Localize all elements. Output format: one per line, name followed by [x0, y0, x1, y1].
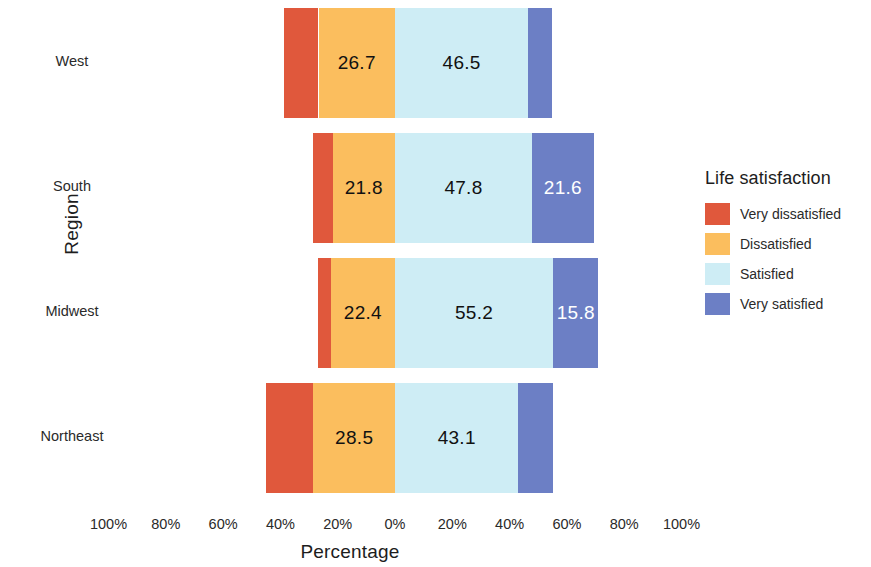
bar-value-label: 15.8: [557, 302, 595, 324]
x-axis-title: Percentage: [0, 541, 700, 563]
x-tick-label: 60%: [537, 516, 597, 532]
bar-value-label: 55.2: [455, 302, 493, 324]
x-tick-label: 20%: [422, 516, 482, 532]
bar-segment: 15.8: [553, 258, 598, 368]
plot-area: 26.746.521.847.821.622.455.215.828.543.1: [0, 0, 700, 510]
legend-item[interactable]: Very dissatisfied: [705, 201, 871, 227]
bar-value-label: 26.7: [338, 52, 376, 74]
legend-item[interactable]: Very satisfied: [705, 291, 871, 317]
bar-segment: 26.7: [319, 8, 395, 118]
bar-segment: 28.5: [313, 383, 395, 493]
bar-row: 28.543.1: [0, 383, 700, 493]
x-tick-label: 20%: [308, 516, 368, 532]
bar-segment: [528, 8, 552, 118]
x-tick-label: 40%: [480, 516, 540, 532]
bar-segment: 46.5: [395, 8, 528, 118]
bar-segment: [266, 383, 313, 493]
x-tick-label: 40%: [250, 516, 310, 532]
bar-segment: 21.8: [333, 133, 395, 243]
legend-swatch: [705, 293, 730, 315]
bar-segment: 21.6: [532, 133, 594, 243]
x-tick-label: 80%: [594, 516, 654, 532]
bar-segment: [518, 383, 552, 493]
x-tick-label: 100%: [652, 516, 712, 532]
legend-title: Life satisfaction: [705, 168, 871, 189]
x-tick-label: 100%: [79, 516, 139, 532]
legend-swatch: [705, 233, 730, 255]
legend-label: Very satisfied: [740, 296, 823, 312]
legend-swatch: [705, 203, 730, 225]
bar-value-label: 46.5: [443, 52, 481, 74]
x-tick-label: 80%: [136, 516, 196, 532]
legend-item[interactable]: Satisfied: [705, 261, 871, 287]
bar-value-label: 43.1: [438, 427, 476, 449]
legend-label: Dissatisfied: [740, 236, 812, 252]
bar-value-label: 47.8: [444, 177, 482, 199]
x-tick-label: 0%: [365, 516, 425, 532]
bar-row: 26.746.5: [0, 8, 700, 118]
bar-segment: 55.2: [395, 258, 553, 368]
legend-items: Very dissatisfiedDissatisfiedSatisfiedVe…: [705, 201, 871, 317]
bar-value-label: 21.6: [544, 177, 582, 199]
bar-segment: 47.8: [395, 133, 532, 243]
bar-segment: [313, 133, 332, 243]
bar-segment: 22.4: [331, 258, 395, 368]
bar-segment: 43.1: [395, 383, 518, 493]
bar-value-label: 28.5: [335, 427, 373, 449]
chart-figure: Region West South Midwest Northeast 26.7…: [0, 0, 871, 567]
bar-row: 21.847.821.6: [0, 133, 700, 243]
bar-row: 22.455.215.8: [0, 258, 700, 368]
bar-value-label: 22.4: [344, 302, 382, 324]
bar-segment: [284, 8, 318, 118]
x-tick-label: 60%: [193, 516, 253, 532]
bar-segment: [318, 258, 331, 368]
bar-value-label: 21.8: [345, 177, 383, 199]
legend-swatch: [705, 263, 730, 285]
legend-label: Very dissatisfied: [740, 206, 841, 222]
legend: Life satisfaction Very dissatisfiedDissa…: [705, 168, 871, 321]
legend-label: Satisfied: [740, 266, 794, 282]
legend-item[interactable]: Dissatisfied: [705, 231, 871, 257]
